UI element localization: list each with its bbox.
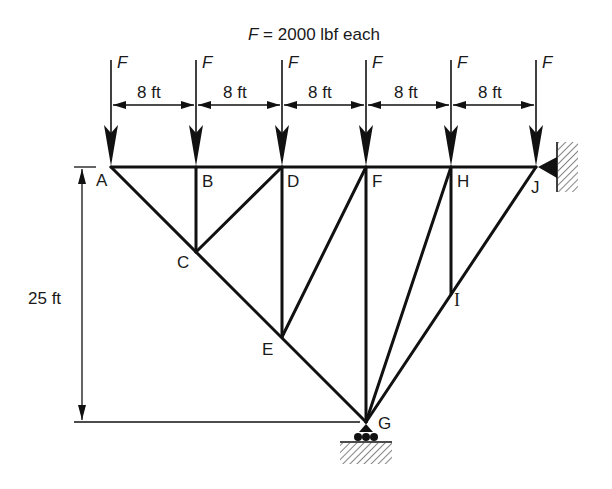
joint-c-label: C [177, 253, 189, 272]
member-e-f [282, 167, 366, 337]
load-title: F = 2000 lbf each [248, 25, 380, 44]
height-dimension: 25 ft [28, 167, 360, 422]
spacing-dim-3: 8 ft [284, 83, 364, 109]
joint-f-label: F [372, 172, 382, 191]
force-arrow-b: F [189, 53, 214, 166]
force-arrow-d: F [275, 53, 300, 166]
member-g-h [366, 167, 451, 422]
joint-i-label: I [454, 290, 460, 310]
force-arrow-f: F [359, 53, 384, 166]
spacing-dim-1: 8 ft [113, 83, 194, 109]
joint-b-label: B [202, 172, 213, 191]
spacing-dim-2: 8 ft [198, 83, 280, 109]
member-a-g [111, 167, 366, 422]
force-arrow-a: F [104, 53, 129, 166]
svg-text:F: F [457, 53, 469, 72]
truss-members [111, 167, 536, 422]
joint-g-label: G [378, 414, 391, 433]
force-arrow-j: F [529, 53, 554, 166]
joint-j-label: J [531, 178, 540, 197]
force-arrow-h: F [444, 53, 469, 166]
joint-labels: A B C D E F G H I J [96, 171, 540, 433]
svg-text:8 ft: 8 ft [223, 83, 247, 102]
svg-text:F: F [288, 53, 300, 72]
spacing-dimensions: 8 ft 8 ft 8 ft 8 ft 8 ft [113, 83, 534, 109]
svg-text:8 ft: 8 ft [478, 83, 502, 102]
svg-text:F: F [117, 53, 129, 72]
joint-h-label: H [457, 172, 469, 191]
spacing-dim-5: 8 ft [453, 83, 534, 109]
joint-e-label: E [262, 340, 273, 359]
force-arrows: F F F F F F [104, 53, 554, 166]
pin-support-j [538, 142, 578, 192]
joint-d-label: D [287, 172, 299, 191]
truss-diagram: F = 2000 lbf each F F F F F F 8 ft 8 ft … [0, 0, 612, 489]
svg-text:25 ft: 25 ft [28, 289, 61, 308]
svg-text:8 ft: 8 ft [308, 83, 332, 102]
svg-text:F: F [542, 53, 554, 72]
svg-text:8 ft: 8 ft [137, 83, 161, 102]
svg-text:F: F [372, 53, 384, 72]
svg-text:F: F [202, 53, 214, 72]
spacing-dim-4: 8 ft [368, 83, 449, 109]
svg-text:8 ft: 8 ft [394, 83, 418, 102]
joint-a-label: A [96, 171, 108, 190]
